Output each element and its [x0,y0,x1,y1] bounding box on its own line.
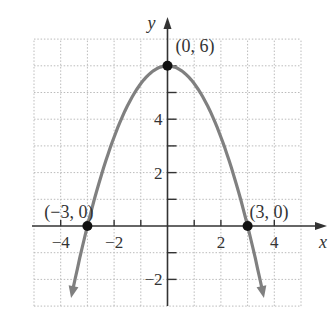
y-tick-label: 4 [154,110,163,129]
x-axis-arrow-icon [315,222,327,230]
x-tick-label: −2 [105,233,123,252]
x-tick-label: 4 [270,233,279,252]
curve-arrow-icon [257,285,267,298]
curve-arrow-icon [69,285,79,298]
point-marker [243,221,253,231]
labeled-points: (0, 6)(−3, 0)(3, 0) [44,36,288,231]
point-marker [82,221,92,231]
axes [32,17,327,306]
point-label: (3, 0) [250,202,289,223]
point-label: (−3, 0) [44,202,93,223]
x-axis-label: x [318,232,327,252]
parabola-chart: (0, 6)(−3, 0)(3, 0) xy−4−22442−2 [0,0,334,322]
point-label: (0, 6) [176,36,215,57]
y-tick-label: 2 [154,164,163,183]
x-tick-label: 2 [217,233,226,252]
y-axis-arrow-icon [164,17,172,29]
y-axis-label: y [146,13,156,33]
x-tick-label: −4 [52,233,71,252]
y-tick-label: −2 [144,270,162,289]
point-marker [163,61,173,71]
